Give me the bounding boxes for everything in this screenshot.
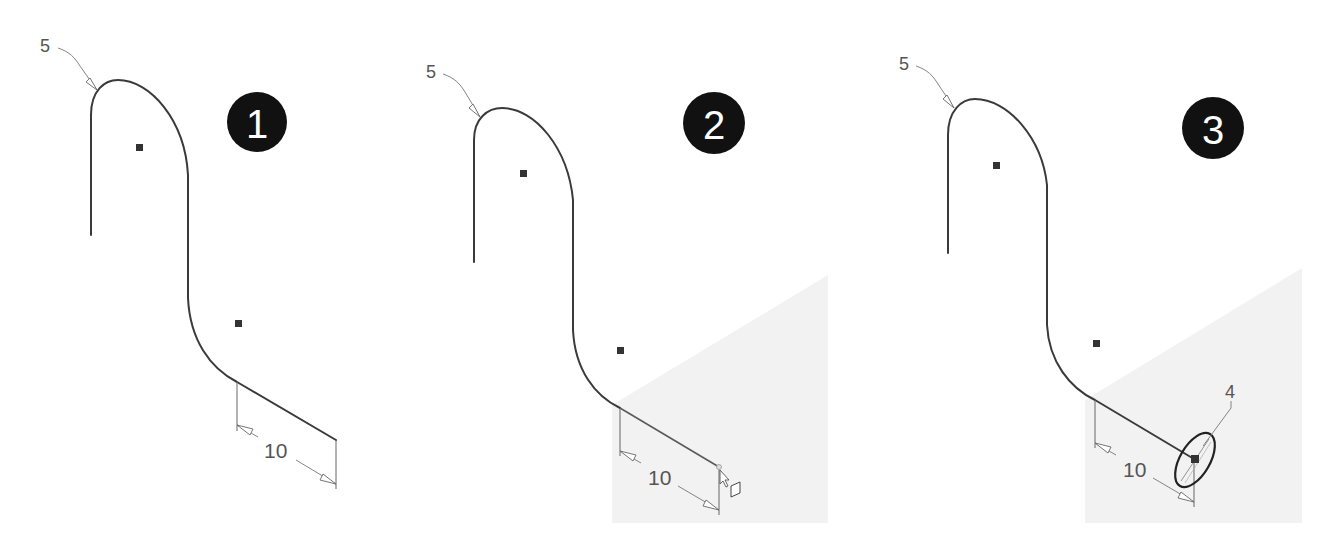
panel-1: 5 10 1 xyxy=(40,36,336,489)
panel-2: 5 10 2 xyxy=(426,62,828,523)
cad-sketch-diagram: 5 10 1 5 10 xyxy=(0,0,1325,545)
step-badge-3: 3 xyxy=(1182,97,1244,159)
panel-3: 5 10 4 3 xyxy=(899,54,1302,523)
selection-shading xyxy=(612,275,828,523)
arc-center-point[interactable] xyxy=(136,144,143,151)
arc-center-point[interactable] xyxy=(235,320,242,327)
arc-center-point[interactable] xyxy=(520,170,527,177)
sketch-profile-curve[interactable] xyxy=(474,108,620,408)
svg-text:3: 3 xyxy=(1202,108,1224,152)
svg-text:2: 2 xyxy=(703,103,725,147)
radius-dimension-label[interactable]: 5 xyxy=(426,62,436,82)
radius-dimension-label[interactable]: 5 xyxy=(40,36,50,56)
linear-dimension-label[interactable]: 10 xyxy=(648,466,671,489)
radius-dimension-label[interactable]: 5 xyxy=(899,54,909,74)
dimension-arrowhead xyxy=(237,425,253,435)
arc-center-point[interactable] xyxy=(617,347,624,354)
linear-dimension-label[interactable]: 10 xyxy=(1123,458,1146,481)
step-badge-1: 1 xyxy=(227,92,287,152)
svg-text:1: 1 xyxy=(246,102,268,146)
step-badge-2: 2 xyxy=(683,92,745,154)
callout-label: 4 xyxy=(1225,382,1235,402)
sketch-profile-curve[interactable] xyxy=(91,80,336,440)
arc-center-point[interactable] xyxy=(1093,340,1100,347)
linear-dimension-label[interactable]: 10 xyxy=(264,439,287,462)
radius-arrowhead xyxy=(469,104,480,117)
radius-arrowhead xyxy=(86,78,97,90)
dimension-arrowhead xyxy=(320,474,336,484)
selected-endpoint[interactable] xyxy=(1191,455,1199,463)
endpoint-marker[interactable] xyxy=(717,465,722,470)
radius-arrowhead xyxy=(943,95,954,108)
arc-center-point[interactable] xyxy=(993,162,1000,169)
